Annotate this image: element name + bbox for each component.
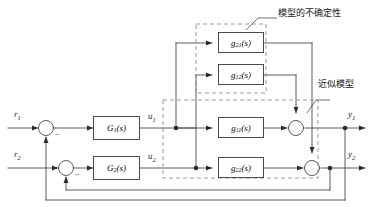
block-g11[interactable]: g11(s) — [218, 117, 264, 138]
sum-junction-y2 — [305, 161, 320, 176]
sum-r1-minus-sign: − — [55, 131, 60, 139]
signal-label-u1: u1 — [148, 112, 156, 123]
annotation-approximate-model: 近似模型 — [318, 80, 354, 89]
input-label-r2: r2 — [14, 150, 21, 161]
output-label-y1: y1 — [348, 110, 355, 121]
sum-r2-minus-sign: − — [75, 171, 80, 179]
block-g12[interactable]: g12(s) — [218, 64, 264, 85]
output-label-y2: y2 — [348, 150, 355, 161]
block-g21-label: g21(s) — [219, 33, 263, 52]
block-G1-label: G1(s) — [94, 117, 139, 139]
dot-y1-takeoff — [343, 126, 348, 131]
block-diagram-canvas: G1(s) G2(s) g21(s) g12(s) g11(s) g22(s) … — [0, 0, 372, 207]
block-g21[interactable]: g21(s) — [218, 32, 264, 53]
sum-junction-y1 — [289, 121, 304, 136]
leader-approximate-model — [307, 100, 330, 113]
signal-label-u2: u2 — [148, 152, 156, 163]
block-G2[interactable]: G2(s) — [93, 156, 140, 180]
block-G2-label: G2(s) — [94, 157, 139, 179]
diagram-wiring — [0, 0, 372, 207]
block-g22-label: g22(s) — [219, 158, 263, 177]
block-g12-label: g12(s) — [219, 65, 263, 84]
block-g22[interactable]: g22(s) — [218, 157, 264, 178]
sum-junction-r1 — [39, 121, 54, 136]
input-label-r1: r1 — [14, 110, 21, 121]
block-G1[interactable]: G1(s) — [93, 116, 140, 140]
dot-y2-takeoff — [328, 166, 333, 171]
dot-u2 — [194, 166, 199, 171]
block-g11-label: g11(s) — [219, 118, 263, 137]
dot-u1 — [174, 126, 179, 131]
sum-junction-r2 — [59, 161, 74, 176]
annotation-model-uncertainty: 模型的不确定性 — [278, 9, 341, 18]
